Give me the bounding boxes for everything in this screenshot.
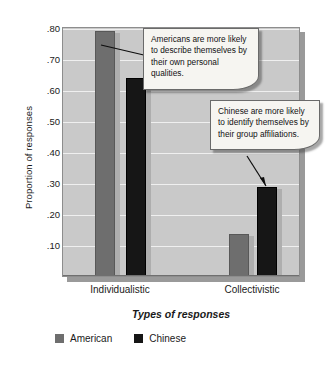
bar-american-individualistic (95, 31, 115, 276)
x-axis-tick-labels: Individualistic Collectivistic (62, 284, 300, 302)
legend-item-chinese: Chinese (134, 333, 186, 344)
x-tick-label-collectivistic: Collectivistic (224, 284, 279, 295)
y-tick-label: .70 (34, 54, 60, 65)
y-tick-label: .50 (34, 116, 60, 127)
x-tick-label-individualistic: Individualistic (90, 284, 149, 295)
bar-chinese-individualistic (126, 78, 146, 276)
y-tick-label: .80 (34, 23, 60, 34)
bar-chinese-collectivistic (257, 187, 277, 276)
bar-american-collectivistic (229, 234, 249, 276)
x-axis-baseline (63, 275, 299, 276)
y-tick-label: .40 (34, 147, 60, 158)
callout-americans: Americans are more likely to describe th… (143, 28, 259, 90)
y-tick-label: .30 (34, 178, 60, 189)
legend-label-chinese: Chinese (149, 333, 186, 344)
bar-chart-figure: Proportion of responses .80 .70 .60 .50 … (0, 0, 336, 380)
x-axis-title: Types of responses (62, 308, 300, 320)
callout-chinese: Chinese are more likely to identify them… (210, 100, 320, 150)
y-tick-label: .20 (34, 209, 60, 220)
y-tick-label: .60 (34, 85, 60, 96)
legend-label-american: American (70, 333, 112, 344)
legend-item-american: American (55, 333, 112, 344)
y-axis-tick-labels: .80 .70 .60 .50 .40 .30 .20 .10 (30, 27, 60, 277)
legend-swatch-icon-american (55, 334, 64, 343)
y-tick-label: .10 (34, 240, 60, 251)
chart-legend: American Chinese (55, 333, 186, 344)
legend-swatch-icon-chinese (134, 334, 143, 343)
